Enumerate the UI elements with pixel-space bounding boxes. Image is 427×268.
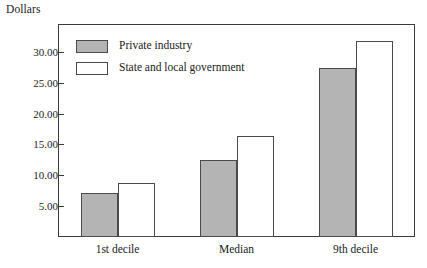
white-filled-swatch-icon [76, 62, 108, 75]
y-axis: 5.0010.0015.0020.0025.0030.00 [0, 0, 58, 268]
x-axis-tick-label: Median [219, 243, 254, 255]
bar-private-industry [81, 193, 118, 237]
legend-item-state-and-local-government: State and local government [76, 60, 245, 76]
y-axis-tick-mark [58, 144, 64, 145]
y-axis-tick-mark [58, 206, 64, 207]
y-axis-tick-mark [58, 52, 64, 53]
legend-label-private-industry: Private industry [119, 40, 192, 52]
y-axis-tick-label: 10.00 [6, 170, 58, 181]
chart-legend: Private industry State and local governm… [76, 38, 245, 82]
y-axis-tick-mark [58, 114, 64, 115]
bar-private-industry [200, 160, 237, 237]
y-axis-tick-label: 30.00 [6, 46, 58, 57]
bar-state-and-local-government [237, 136, 274, 237]
gray-filled-swatch-icon [76, 40, 108, 53]
bar-chart: Dollars 5.0010.0015.0020.0025.0030.00 1s… [0, 0, 427, 268]
y-axis-tick-mark [58, 175, 64, 176]
y-axis-tick-label: 5.00 [6, 201, 58, 212]
bar-private-industry [319, 68, 356, 237]
legend-label-state-and-local-government: State and local government [119, 62, 245, 74]
y-axis-tick-mark [58, 83, 64, 84]
legend-item-private-industry: Private industry [76, 38, 245, 54]
y-axis-tick-label: 25.00 [6, 77, 58, 88]
x-axis-tick-label: 9th decile [333, 243, 378, 255]
y-axis-tick-label: 20.00 [6, 108, 58, 119]
y-axis-tick-label: 15.00 [6, 139, 58, 150]
x-axis-tick-label: 1st decile [96, 243, 140, 255]
bar-state-and-local-government [356, 41, 393, 237]
bar-state-and-local-government [118, 183, 155, 237]
